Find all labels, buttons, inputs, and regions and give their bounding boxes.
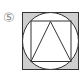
geometry-figure [0, 0, 82, 74]
